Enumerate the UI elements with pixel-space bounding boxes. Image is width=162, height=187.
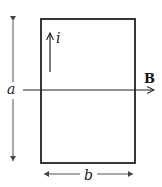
loop-diagram: a b i B — [0, 0, 162, 187]
current-label: i — [56, 30, 60, 46]
width-label: b — [84, 167, 93, 183]
field-label: B — [144, 71, 155, 86]
height-label: a — [7, 81, 15, 97]
